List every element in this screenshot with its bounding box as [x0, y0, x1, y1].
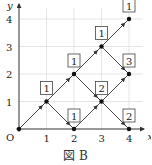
direction-arrow — [121, 23, 125, 27]
lattice-path-diagram: xyO1234123411121231 — [0, 0, 151, 150]
y-tick-label: 1 — [6, 97, 12, 108]
count-label: 3 — [126, 56, 132, 67]
x-tick-label: 2 — [71, 133, 77, 144]
lattice-point — [127, 17, 131, 21]
direction-arrow — [93, 106, 97, 110]
x-tick-label: 1 — [44, 133, 50, 144]
lattice-point — [44, 99, 48, 103]
count-label: 1 — [44, 83, 50, 94]
count-label: 1 — [99, 28, 105, 39]
direction-arrow — [93, 51, 97, 55]
lattice-point — [72, 127, 76, 131]
x-tick-label: 4 — [126, 133, 132, 144]
y-tick-label: 4 — [6, 14, 12, 25]
lattice-point — [127, 127, 131, 131]
y-tick-label: 2 — [6, 69, 12, 80]
direction-arrow — [121, 78, 125, 82]
figure-caption: 図 B — [0, 146, 151, 163]
lattice-point — [99, 99, 103, 103]
x-tick-label: 3 — [99, 133, 105, 144]
lattice-point — [127, 72, 131, 76]
count-label: 1 — [71, 56, 77, 67]
lattice-point — [72, 72, 76, 76]
origin-label: O — [6, 132, 14, 143]
direction-arrow — [38, 106, 42, 110]
direction-arrow — [66, 78, 70, 82]
count-label: 1 — [71, 111, 77, 122]
lattice-point — [17, 127, 21, 131]
lattice-point — [99, 44, 103, 48]
x-axis-label: x — [148, 131, 152, 142]
count-label: 2 — [126, 111, 132, 122]
count-label: 2 — [99, 83, 105, 94]
count-label: 1 — [126, 1, 132, 12]
y-axis-label: y — [6, 0, 13, 11]
y-tick-label: 3 — [6, 42, 12, 53]
